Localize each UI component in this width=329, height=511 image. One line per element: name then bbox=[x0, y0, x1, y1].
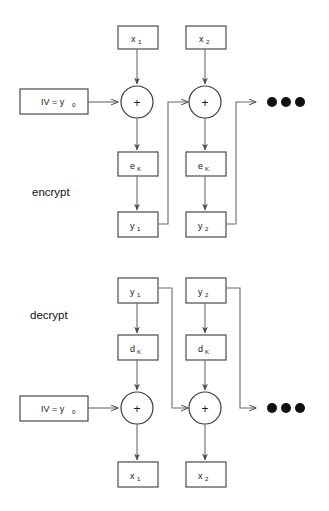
encrypt-y1-feedback-wire bbox=[158, 102, 188, 224]
encrypt-ek1-label: e bbox=[130, 161, 135, 171]
encrypt-xor-2[interactable]: + bbox=[189, 86, 221, 118]
decrypt-y1-label: y bbox=[130, 287, 135, 297]
decrypt-y2-label: y bbox=[198, 287, 203, 297]
decrypt-ciphertext-box-2[interactable]: y 2 bbox=[186, 278, 226, 303]
decrypt-dk2-label: d bbox=[198, 344, 203, 354]
encrypt-ellipsis-dot-2 bbox=[281, 97, 291, 107]
encrypt-iv-subscript: 0 bbox=[72, 101, 76, 108]
encrypt-xor1-plus-icon: + bbox=[133, 96, 140, 110]
decrypt-y1-feedback-wire bbox=[158, 288, 188, 408]
decrypt-cipher-box-1[interactable]: d K bbox=[118, 335, 158, 360]
decrypt-y2-subscript: 2 bbox=[205, 291, 209, 298]
decrypt-iv-label: IV = y bbox=[41, 404, 65, 414]
encrypt-ciphertext-box-1[interactable]: y 1 bbox=[118, 212, 158, 237]
encrypt-plaintext-box-2[interactable]: x 2 bbox=[186, 26, 226, 49]
decrypt-x1-label: x bbox=[130, 471, 135, 481]
encrypt-xor-1[interactable]: + bbox=[121, 86, 153, 118]
decrypt-xor2-plus-icon: + bbox=[201, 402, 208, 416]
decrypt-x1-subscript: 1 bbox=[137, 475, 141, 482]
encrypt-cipher-box-2[interactable]: e K bbox=[186, 152, 226, 176]
encrypt-y1-label: y bbox=[130, 221, 135, 231]
encrypt-ellipsis-dot-1 bbox=[267, 97, 277, 107]
decrypt-iv-subscript: 0 bbox=[72, 408, 76, 415]
encrypt-y1-subscript: 1 bbox=[137, 225, 141, 232]
decrypt-plaintext-box-2[interactable]: x 2 bbox=[186, 462, 226, 487]
encrypt-y2-feedback-wire bbox=[226, 102, 256, 224]
decrypt-iv-box[interactable]: IV = y 0 bbox=[20, 396, 88, 421]
decrypt-y1-subscript: 1 bbox=[137, 291, 141, 298]
decrypt-cipher-box-2[interactable]: d K bbox=[186, 335, 226, 360]
encrypt-plaintext-box-1[interactable]: x 1 bbox=[118, 26, 158, 49]
decrypt-ellipsis-dot-3 bbox=[295, 403, 305, 413]
decrypt-xor1-plus-icon: + bbox=[133, 402, 140, 416]
encrypt-xor2-plus-icon: + bbox=[201, 96, 208, 110]
encrypt-ek1-rect bbox=[118, 152, 158, 176]
encrypt-y2-subscript: 2 bbox=[205, 225, 209, 232]
encrypt-iv-box[interactable]: IV = y 0 bbox=[20, 89, 88, 114]
encrypt-x1-label: x bbox=[131, 34, 136, 44]
encrypt-cipher-box-1[interactable]: e K bbox=[118, 152, 158, 176]
decrypt-ellipsis-dot-1 bbox=[267, 403, 277, 413]
encrypt-ciphertext-box-2[interactable]: y 2 bbox=[186, 212, 226, 237]
decrypt-y2-feedback-wire bbox=[226, 288, 256, 408]
decrypt-stage-label: decrypt bbox=[30, 309, 69, 321]
decrypt-xor-1[interactable]: + bbox=[121, 392, 153, 424]
encrypt-x1-subscript: 1 bbox=[138, 38, 142, 45]
encrypt-iv-label: IV = y bbox=[41, 97, 65, 107]
decrypt-xor-2[interactable]: + bbox=[189, 392, 221, 424]
encrypt-y2-label: y bbox=[198, 221, 203, 231]
decrypt-ciphertext-box-1[interactable]: y 1 bbox=[118, 278, 158, 303]
encrypt-x2-label: x bbox=[199, 34, 204, 44]
decrypt-dk1-label: d bbox=[130, 344, 135, 354]
diagram-canvas: encrypt IV = y 0 x 1 + e bbox=[0, 0, 329, 511]
encrypt-ellipsis bbox=[267, 97, 305, 107]
decrypt-ellipsis bbox=[267, 403, 305, 413]
encrypt-x2-subscript: 2 bbox=[206, 38, 210, 45]
encrypt-ek2-label: e bbox=[198, 161, 203, 171]
encrypt-stage-label: encrypt bbox=[32, 186, 71, 198]
decrypt-ellipsis-dot-2 bbox=[281, 403, 291, 413]
encrypt-ek2-rect bbox=[186, 152, 226, 176]
decrypt-x2-label: x bbox=[198, 471, 203, 481]
decrypt-plaintext-box-1[interactable]: x 1 bbox=[118, 462, 158, 487]
decrypt-section: decrypt IV = y 0 y 1 d K bbox=[20, 278, 305, 487]
encrypt-section: encrypt IV = y 0 x 1 + e bbox=[20, 26, 305, 237]
decrypt-x2-subscript: 2 bbox=[205, 475, 209, 482]
encrypt-ellipsis-dot-3 bbox=[295, 97, 305, 107]
cbc-mode-diagram: encrypt IV = y 0 x 1 + e bbox=[0, 0, 329, 511]
